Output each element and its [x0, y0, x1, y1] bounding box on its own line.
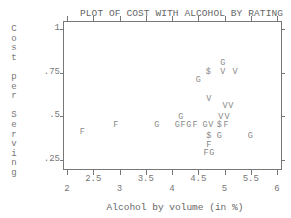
y-axis-label-letter: r — [10, 130, 18, 140]
data-point: F — [191, 121, 199, 130]
y-axis-label-letter — [10, 62, 18, 72]
x-tick-mark-top — [251, 16, 252, 21]
y-tick-label: .5 — [32, 110, 60, 120]
x-tick-label: 5 — [215, 184, 235, 194]
data-point: V — [205, 95, 213, 104]
y-tick-mark — [60, 160, 64, 161]
y-tick-mark — [60, 116, 64, 117]
x-tick-mark-top — [93, 16, 94, 21]
data-point: G — [153, 121, 161, 130]
data-point: G — [215, 132, 223, 141]
data-point: V — [231, 68, 239, 77]
x-tick-mark-top — [146, 16, 147, 21]
x-tick-label: 2.5 — [83, 174, 103, 184]
y-axis-label-letter: p — [10, 72, 18, 82]
x-tick-label: 2 — [57, 184, 77, 194]
data-point: V — [223, 113, 231, 122]
y-axis-label-letter: e — [10, 120, 18, 130]
data-point: G — [208, 149, 216, 158]
x-tick-mark-bottom — [120, 170, 121, 175]
plot-frame — [63, 21, 282, 170]
x-tick-mark-bottom — [225, 170, 226, 175]
data-point: V — [219, 68, 227, 77]
y-axis-label-letter: i — [10, 149, 18, 159]
y-axis-label-letter: r — [10, 91, 18, 101]
y-tick-mark-right — [281, 73, 285, 74]
y-axis-label-letter: o — [10, 34, 18, 44]
x-tick-mark-bottom — [172, 170, 173, 175]
y-tick-mark-right — [281, 116, 285, 117]
y-tick-mark-right — [281, 160, 285, 161]
y-axis-label-letter: n — [10, 158, 18, 168]
x-tick-mark-top — [277, 16, 278, 21]
y-axis-label-letter: v — [10, 139, 18, 149]
x-tick-label: 4 — [162, 184, 182, 194]
y-tick-mark — [60, 29, 64, 30]
x-tick-mark-top — [198, 16, 199, 21]
data-point: F — [222, 121, 230, 130]
data-point: G — [194, 76, 202, 85]
data-point: V — [227, 102, 235, 111]
x-tick-label: 4.5 — [188, 174, 208, 184]
y-tick-label: 1 — [32, 23, 60, 33]
x-tick-mark-top — [172, 16, 173, 21]
x-tick-label: 6 — [267, 184, 287, 194]
data-point: $ — [204, 68, 212, 77]
y-axis-label-letter: g — [10, 168, 18, 178]
x-tick-mark-top — [67, 16, 68, 21]
y-axis-label-letter: C — [10, 24, 18, 34]
data-point: F — [112, 121, 120, 130]
x-tick-mark-bottom — [277, 170, 278, 175]
x-tick-label: 3.5 — [136, 174, 156, 184]
x-tick-label: 5.5 — [241, 174, 261, 184]
y-axis-label-letter: S — [10, 110, 18, 120]
data-point: G — [246, 132, 254, 141]
y-tick-label: .75 — [32, 67, 60, 77]
x-tick-mark-top — [120, 16, 121, 21]
x-tick-mark-top — [225, 16, 226, 21]
y-axis-label-letter: e — [10, 82, 18, 92]
y-axis-label-letter: s — [10, 43, 18, 53]
data-point: V — [207, 121, 215, 130]
y-tick-mark — [60, 73, 64, 74]
y-tick-mark-right — [281, 29, 285, 30]
y-axis-label-letter — [10, 101, 18, 111]
x-tick-label: 3 — [110, 184, 130, 194]
x-axis-label: Alcohol by volume (in %) — [90, 202, 260, 213]
x-tick-mark-bottom — [67, 170, 68, 175]
y-axis-label-letter: t — [10, 53, 18, 63]
data-point: F — [78, 128, 86, 137]
y-tick-label: .25 — [32, 154, 60, 164]
